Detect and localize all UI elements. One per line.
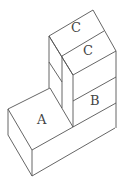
- block-c: [49, 10, 116, 128]
- label-b: B: [90, 93, 100, 108]
- label-a: A: [36, 112, 47, 127]
- label-c-lower: C: [83, 43, 93, 58]
- block-column: [49, 36, 73, 127]
- block-diagram: C C B A: [0, 0, 121, 186]
- label-c-top: C: [71, 20, 81, 35]
- blocks-svg: C C B A: [0, 0, 121, 186]
